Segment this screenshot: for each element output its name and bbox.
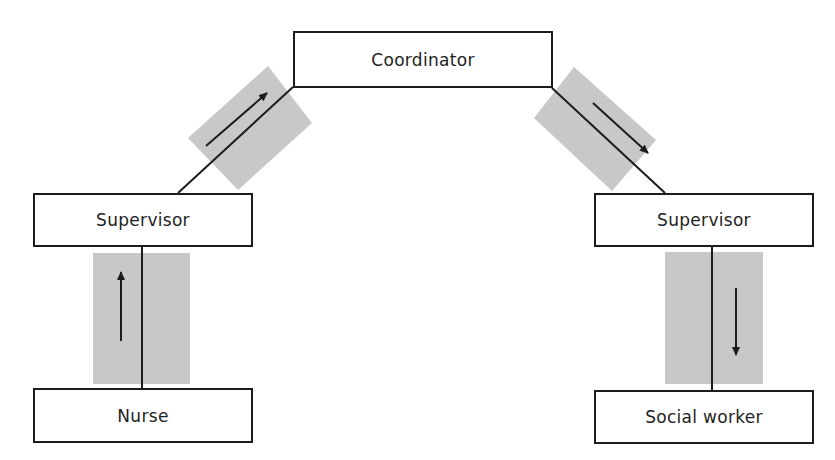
- supervisor-right-label: Supervisor: [657, 210, 751, 230]
- coordinator-node: Coordinator: [293, 31, 553, 88]
- supervisor-left-label: Supervisor: [96, 210, 190, 230]
- coordinator-label: Coordinator: [371, 50, 474, 70]
- nurse-label: Nurse: [117, 406, 168, 426]
- communication-flow-diagram: Coordinator Supervisor Supervisor Nurse …: [0, 0, 835, 460]
- channel-band-right-vertical: [665, 252, 763, 384]
- supervisor-left-node: Supervisor: [33, 193, 253, 247]
- social-worker-label: Social worker: [645, 407, 763, 427]
- supervisor-right-node: Supervisor: [594, 193, 814, 247]
- nurse-node: Nurse: [33, 388, 253, 443]
- social-worker-node: Social worker: [594, 390, 814, 444]
